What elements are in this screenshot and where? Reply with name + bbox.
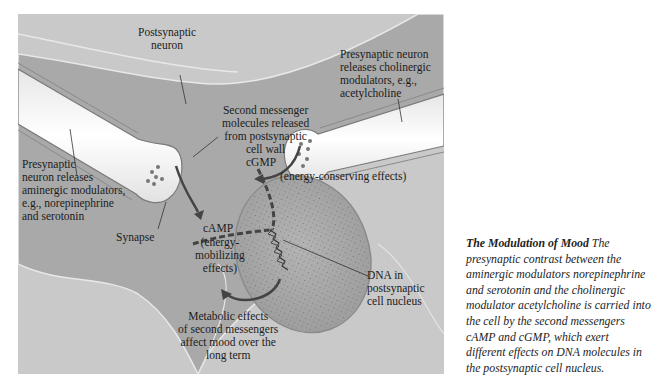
figure-caption: The Modulation of Mood The presynaptic c… bbox=[466, 236, 636, 376]
label-presynaptic-aminergic: Presynaptic neuron releases aminergic mo… bbox=[22, 158, 125, 223]
label-cgmp-effects: (energy-conserving effects) bbox=[280, 170, 406, 183]
label-synapse: Synapse bbox=[116, 231, 154, 244]
caption-title: The Modulation of Mood bbox=[466, 236, 589, 250]
label-camp-effects: (energy- mobilizing effects) bbox=[195, 236, 245, 275]
label-camp: cAMP bbox=[203, 222, 233, 235]
diagram-panel: Postsynaptic neuron Presynaptic neuron r… bbox=[18, 14, 444, 374]
label-cgmp: cGMP bbox=[246, 156, 276, 169]
label-dna: DNA in postsynaptic cell nucleus bbox=[367, 269, 425, 308]
label-metabolic-effects: Metabolic effects of second messengers a… bbox=[178, 310, 278, 362]
label-presynaptic-cholinergic: Presynaptic neuron releases cholinergic … bbox=[340, 48, 431, 100]
label-second-messenger: Second messenger molecules released from… bbox=[222, 104, 309, 156]
label-postsynaptic-neuron: Postsynaptic neuron bbox=[138, 26, 196, 52]
